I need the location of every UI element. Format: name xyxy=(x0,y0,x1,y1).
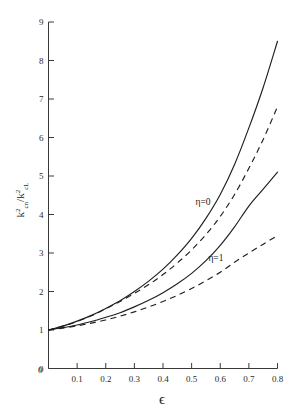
y-tick-label-7: 7 xyxy=(39,94,44,104)
y-tick-label-2: 2 xyxy=(39,287,44,297)
chart-plot-area: 0123456789 00.10.20.30.40.50.60.70.8 η=0… xyxy=(0,0,295,416)
y-tick-label-4: 4 xyxy=(39,210,44,220)
curve-0 xyxy=(49,41,278,330)
x-axis-ticks xyxy=(77,363,277,369)
curve-annotation-0: η=0 xyxy=(196,197,211,207)
y-tick-label-3: 3 xyxy=(39,248,44,258)
x-tick-label-6: 0.6 xyxy=(215,374,227,384)
y-axis-title-num-sup: 2 xyxy=(14,208,22,212)
x-axis-tick-labels: 00.10.20.30.40.50.60.70.8 xyxy=(38,365,284,384)
y-axis-title-den-sub: cL xyxy=(22,182,30,189)
svg-text:k2cn/k2cL: k2cn/k2cL xyxy=(14,182,30,217)
y-axis-title-den-sup: 2 xyxy=(14,189,22,193)
curve-2 xyxy=(49,172,278,330)
data-curves xyxy=(49,41,278,330)
curve-3 xyxy=(49,236,278,330)
y-tick-label-5: 5 xyxy=(39,171,44,181)
x-tick-label-5: 0.5 xyxy=(186,374,198,384)
curve-annotation-1: η=1 xyxy=(208,253,223,263)
x-tick-label-0: 0 xyxy=(38,365,43,375)
x-tick-label-4: 0.4 xyxy=(157,374,169,384)
axes-group xyxy=(49,22,278,369)
x-axis-title: ϵ xyxy=(159,391,165,407)
y-axis-ticks xyxy=(49,22,55,369)
y-tick-label-8: 8 xyxy=(39,56,44,66)
y-tick-label-9: 9 xyxy=(39,17,44,27)
x-tick-label-8: 0.8 xyxy=(272,374,284,384)
x-tick-label-7: 0.7 xyxy=(243,374,255,384)
x-tick-label-2: 0.2 xyxy=(100,374,111,384)
y-axis-title: k2cn/k2cL xyxy=(14,182,30,217)
y-axis-tick-labels: 0123456789 xyxy=(39,17,44,374)
chart-figure: 0123456789 00.10.20.30.40.50.60.70.8 η=0… xyxy=(0,0,295,416)
x-tick-label-3: 0.3 xyxy=(129,374,141,384)
x-tick-label-1: 0.1 xyxy=(72,374,83,384)
y-tick-label-6: 6 xyxy=(39,133,44,143)
y-tick-label-1: 1 xyxy=(39,325,44,335)
curve-1 xyxy=(49,107,278,330)
